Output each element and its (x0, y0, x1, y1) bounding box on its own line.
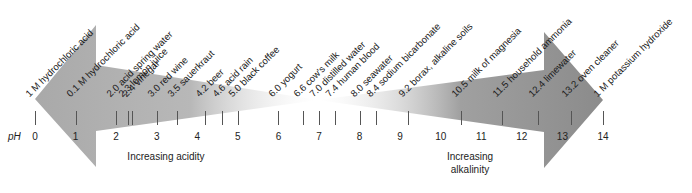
arrows-graphic (0, 0, 692, 193)
ph-tick-number: 12 (516, 131, 527, 142)
ph-tick-number: 3 (154, 131, 160, 142)
substance-tick (132, 111, 133, 125)
ph-tick-number: 11 (476, 131, 486, 142)
ph-tick-number: 8 (357, 131, 363, 142)
substance-tick (335, 111, 336, 125)
substance-tick (538, 111, 539, 125)
ph-tick-number: 5 (235, 131, 241, 142)
ph-tick-number: 4 (195, 131, 201, 142)
ph-scale-diagram: pH 01234567891011121314 1 M hydrochloric… (0, 0, 692, 193)
ph-tick-number: 2 (113, 131, 119, 142)
substance-tick (461, 111, 462, 125)
substance-tick (319, 111, 320, 125)
ph-axis-label: pH (8, 131, 21, 142)
substance-tick (76, 111, 77, 125)
substance-tick (35, 111, 36, 125)
ph-tick-number: 14 (597, 131, 608, 142)
ph-tick-number: 1 (73, 131, 79, 142)
substance-tick (278, 111, 279, 125)
substance-tick (376, 111, 377, 125)
substance-tick (408, 111, 409, 125)
ph-tick-number: 6 (276, 131, 282, 142)
substance-tick (157, 111, 158, 125)
substance-tick (603, 111, 604, 125)
substance-tick (128, 111, 129, 125)
ph-tick-number: 10 (435, 131, 446, 142)
ph-tick-number: 7 (316, 131, 322, 142)
increasing-acidity-caption: Increasing acidity (126, 150, 206, 163)
substance-tick (502, 111, 503, 125)
increasing-alkalinity-caption: Increasing alkalinity (430, 150, 510, 176)
substance-tick (222, 111, 223, 125)
substance-tick (205, 111, 206, 125)
ph-tick-number: 9 (397, 131, 403, 142)
substance-tick (238, 111, 239, 125)
substance-tick (116, 111, 117, 125)
ph-tick-number: 0 (32, 131, 38, 142)
ph-tick-number: 13 (557, 131, 568, 142)
substance-tick (571, 111, 572, 125)
substance-tick (177, 111, 178, 125)
substance-tick (360, 111, 361, 125)
substance-tick (303, 111, 304, 125)
